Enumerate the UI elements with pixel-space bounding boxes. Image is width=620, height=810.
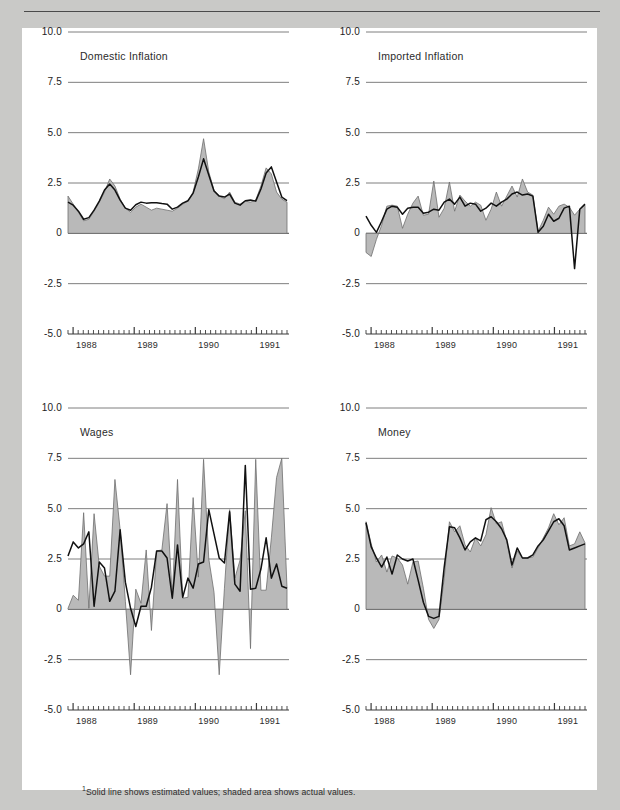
y-axis-tick-label: 10.0 (22, 26, 62, 37)
y-axis-tick-label: 10.0 (320, 402, 360, 413)
figure-footnote: 1Solid line shows estimated values; shad… (82, 785, 355, 797)
actual-values-shaded-area (68, 139, 287, 234)
x-axis-tick-label: 1988 (76, 716, 97, 726)
y-axis-tick-label: 10.0 (320, 26, 360, 37)
y-axis-tick-label: 2.5 (320, 553, 360, 564)
y-axis-tick-label: 5.0 (320, 503, 360, 514)
x-axis-tick-label: 1989 (435, 340, 456, 350)
plot-area (68, 408, 297, 740)
y-axis-tick-label: 0 (320, 603, 360, 614)
y-axis-tick-label: -2.5 (320, 278, 360, 289)
y-axis-tick-label: -5.0 (320, 704, 360, 715)
plot-area (68, 32, 297, 364)
y-axis-tick-label: 7.5 (22, 452, 62, 463)
y-axis-tick-label: 7.5 (22, 76, 62, 87)
x-axis-tick-label: 1990 (496, 340, 517, 350)
x-axis-tick-label: 1990 (198, 340, 219, 350)
x-axis-tick-label: 1989 (137, 716, 158, 726)
caption-divider (24, 11, 600, 12)
x-axis-tick-label: 1989 (435, 716, 456, 726)
y-axis-tick-label: 0 (320, 227, 360, 238)
y-axis-tick-label: -5.0 (22, 704, 62, 715)
y-axis-tick-label: 5.0 (22, 127, 62, 138)
caption-cropped-text (26, 0, 586, 10)
y-axis-tick-label: 5.0 (22, 503, 62, 514)
y-axis-tick-label: 7.5 (320, 76, 360, 87)
x-axis-tick-label: 1990 (496, 716, 517, 726)
y-axis-tick-label: 2.5 (22, 177, 62, 188)
x-axis-tick-label: 1990 (198, 716, 219, 726)
x-axis-tick-label: 1991 (557, 340, 578, 350)
footnote-text: Solid line shows estimated values; shade… (86, 787, 355, 797)
plot-area (366, 32, 595, 364)
actual-values-shaded-area (68, 458, 287, 674)
y-axis-tick-label: 2.5 (22, 553, 62, 564)
y-axis-tick-label: 2.5 (320, 177, 360, 188)
x-axis-tick-label: 1988 (374, 340, 395, 350)
chart-panel-domestic-inflation: 10.07.55.02.50-2.5-5.0Domestic Inflation… (22, 32, 299, 407)
y-axis-tick-label: 0 (22, 603, 62, 614)
y-axis-tick-label: 7.5 (320, 452, 360, 463)
y-axis-tick-label: 5.0 (320, 127, 360, 138)
figure-page: 10.07.55.02.50-2.5-5.0Domestic Inflation… (0, 0, 620, 810)
actual-values-shaded-area (366, 179, 585, 257)
x-axis-tick-label: 1988 (76, 340, 97, 350)
x-axis-tick-label: 1988 (374, 716, 395, 726)
y-axis-tick-label: -2.5 (22, 278, 62, 289)
y-axis-tick-label: 0 (22, 227, 62, 238)
y-axis-tick-label: -2.5 (22, 654, 62, 665)
y-axis-tick-label: -5.0 (22, 328, 62, 339)
x-axis-tick-label: 1991 (259, 340, 280, 350)
chart-panel-imported-inflation: 10.07.55.02.50-2.5-5.0Imported Inflation… (320, 32, 597, 407)
panel-grid: 10.07.55.02.50-2.5-5.0Domestic Inflation… (22, 28, 597, 790)
y-axis-tick-label: -2.5 (320, 654, 360, 665)
plot-area (366, 408, 595, 740)
y-axis-tick-label: 10.0 (22, 402, 62, 413)
x-axis-tick-label: 1991 (259, 716, 280, 726)
figure-card: 10.07.55.02.50-2.5-5.0Domestic Inflation… (22, 28, 597, 790)
chart-panel-money: 10.07.55.02.50-2.5-5.0Money1988198919901… (320, 408, 597, 783)
y-axis-tick-label: -5.0 (320, 328, 360, 339)
chart-panel-wages: 10.07.55.02.50-2.5-5.0Wages1988198919901… (22, 408, 299, 783)
x-axis-tick-label: 1991 (557, 716, 578, 726)
x-axis-tick-label: 1989 (137, 340, 158, 350)
